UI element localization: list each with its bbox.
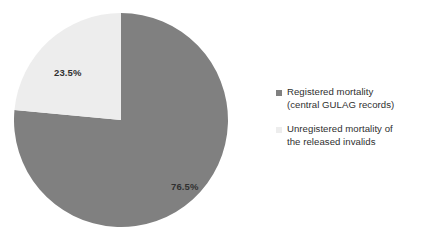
chart-legend: Registered mortality (central GULAG reco…	[276, 86, 428, 160]
legend-swatch-icon-unregistered	[276, 127, 282, 133]
legend-item-label-line1: Unregistered mortality of	[287, 123, 428, 136]
pie-label-unregistered-percent: 23.5%	[54, 67, 81, 78]
pie-svg	[14, 13, 228, 227]
legend-item-unregistered-mortality[interactable]: Unregistered mortality of the released i…	[276, 123, 428, 148]
pie-label-registered-percent: 76.5%	[171, 181, 198, 192]
legend-item-label-line2: (central GULAG records)	[287, 99, 428, 112]
legend-swatch-icon-registered	[276, 90, 282, 96]
pie-chart-graphic: 23.5% 76.5%	[14, 13, 228, 227]
legend-item-registered-mortality[interactable]: Registered mortality (central GULAG reco…	[276, 86, 428, 111]
legend-item-label-line1: Registered mortality	[287, 86, 428, 99]
legend-item-label-line2: the released invalids	[287, 136, 428, 149]
pie-chart-figure: 23.5% 76.5% Registered mortality (centra…	[0, 0, 432, 240]
